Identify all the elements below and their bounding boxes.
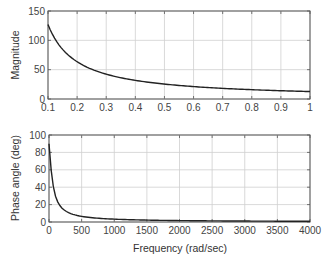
x-tick-label: 1500: [136, 225, 159, 236]
bode-plot-figure: 0.10.20.30.40.50.60.70.80.91050100150 05…: [0, 0, 336, 265]
data-curve: [48, 24, 310, 91]
x-tick-label: 1000: [103, 225, 126, 236]
y-tick-label: 60: [35, 164, 47, 175]
x-tick-label: 3000: [234, 225, 257, 236]
y-tick-label: 80: [35, 147, 47, 158]
x-tick-label: 0.2: [70, 102, 84, 113]
phase-plot: 0500100015002000250030003500400002040608…: [29, 130, 321, 237]
y-tick-label: 40: [35, 182, 47, 193]
y-tick-label: 50: [34, 64, 46, 75]
x-tick-label: 0.7: [216, 102, 230, 113]
frequency-xlabel: Frequency (rad/sec): [133, 242, 227, 254]
x-tick-label: 0.5: [157, 102, 171, 113]
y-tick-label: 150: [28, 6, 45, 17]
x-tick-label: 0.3: [99, 102, 113, 113]
x-tick-label: 0.8: [245, 102, 259, 113]
x-tick-label: 2500: [201, 225, 224, 236]
x-tick-label: 0.9: [274, 102, 288, 113]
phase-ylabel: Phase angle (deg): [9, 135, 21, 221]
y-tick-label: 20: [35, 199, 47, 210]
x-tick-label: 0.6: [187, 102, 201, 113]
y-tick-label: 100: [28, 35, 45, 46]
y-tick-label: 0: [40, 217, 46, 228]
x-tick-label: 500: [73, 225, 90, 236]
magnitude-ylabel: Magnitude: [9, 30, 21, 79]
x-tick-label: 4000: [299, 225, 322, 236]
x-tick-label: 0: [46, 225, 52, 236]
x-tick-label: 0.4: [128, 102, 142, 113]
magnitude-plot: 0.10.20.30.40.50.60.70.80.91050100150: [28, 6, 313, 114]
y-tick-label: 100: [29, 130, 46, 141]
y-tick-label: 0: [39, 94, 45, 105]
x-tick-label: 1: [307, 102, 313, 113]
x-tick-label: 3500: [266, 225, 289, 236]
x-tick-label: 2000: [168, 225, 191, 236]
